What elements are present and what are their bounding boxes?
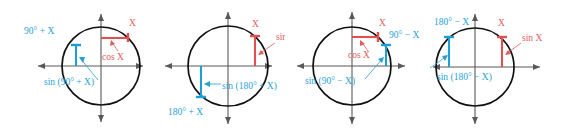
diagram-panel-4: 180° − X X sin X sin (180° − X) xyxy=(425,0,562,130)
label-angle-blue-3: 90° − X xyxy=(389,30,419,40)
label-value-red-2: sin X xyxy=(276,32,285,42)
sin-90-plus-x-leader-arrow xyxy=(79,57,85,63)
label-angle-red-3: X xyxy=(379,18,386,28)
y-axis-arrow-up xyxy=(349,12,355,19)
diagram-panel-1: 90° + X X cos X sin (90° + X) xyxy=(0,0,145,130)
x-axis-arrow-left xyxy=(165,63,172,69)
y-axis-arrow-up xyxy=(472,14,478,21)
sin-90-minus-x-leader-arrow xyxy=(378,57,384,63)
x-axis-arrow-right xyxy=(533,64,540,70)
label-angle-red-4: X xyxy=(498,18,505,28)
label-angle-red-1: X xyxy=(129,18,136,28)
x-axis-arrow-right xyxy=(398,63,405,69)
label-angle-blue-1: 90° + X xyxy=(24,26,54,36)
y-axis-arrow-down xyxy=(472,117,478,124)
diagram-panel-3: X 90° − X cos X sin (90° − X) xyxy=(285,0,425,130)
diagram-panel-2: X sin X sin (180° + X) 180° + X xyxy=(145,0,285,130)
x-axis-arrow-left xyxy=(297,63,304,69)
label-angle-blue-4: 180° − X xyxy=(434,17,469,27)
label-value-red-4: sin X xyxy=(522,33,542,43)
y-axis-arrow-up xyxy=(225,12,231,19)
label-angle-blue-2: 180° + X xyxy=(168,107,203,117)
label-value-blue-4: sin (180° − X) xyxy=(437,72,492,83)
y-axis-arrow-down xyxy=(225,117,231,124)
y-axis-arrow-down xyxy=(349,117,355,124)
label-value-blue-3: sin (90° − X) xyxy=(305,76,355,87)
unit-circle-svg-1: 90° + X X cos X sin (90° + X) xyxy=(0,0,145,130)
label-value-blue-1: sin (90° + X) xyxy=(44,77,94,88)
unit-circle-svg-3: X 90° − X cos X sin (90° − X) xyxy=(285,0,425,130)
sin-180-plus-x-leader-arrow xyxy=(204,81,210,87)
label-value-red-3: cos X xyxy=(348,50,370,60)
sin-180-minus-x-leader-arrow xyxy=(442,55,448,61)
y-axis-arrow-up xyxy=(98,14,104,21)
trig-identity-figure: 90° + X X cos X sin (90° + X) xyxy=(0,0,562,130)
label-value-blue-2: sin (180° + X) xyxy=(222,81,277,92)
sin-90-plus-x-segment-blue xyxy=(71,45,81,66)
label-angle-red-2: X xyxy=(252,19,259,29)
y-axis-arrow-down xyxy=(98,115,104,122)
label-value-red-1: cos X xyxy=(102,52,124,62)
x-axis-arrow-left xyxy=(38,63,45,69)
unit-circle-svg-2: X sin X sin (180° + X) 180° + X xyxy=(145,0,285,130)
unit-circle-svg-4: 180° − X X sin X sin (180° − X) xyxy=(425,0,562,130)
